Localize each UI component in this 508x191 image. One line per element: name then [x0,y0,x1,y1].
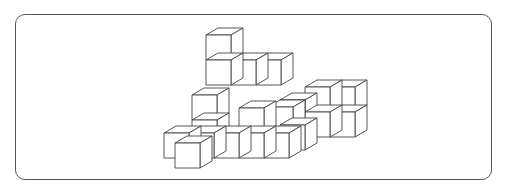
cube [175,136,212,168]
stacked-cubes-drawing [0,0,508,191]
cube-front-face [175,143,200,168]
cube [206,53,243,85]
cube-front-face [206,60,231,85]
